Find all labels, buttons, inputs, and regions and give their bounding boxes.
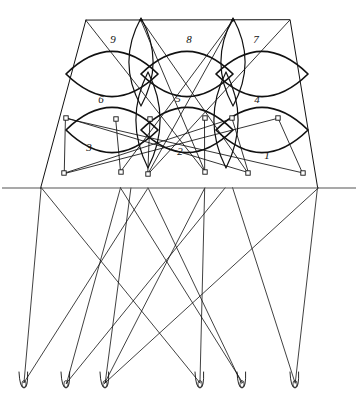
node-marker-mid [230, 116, 234, 120]
node-marker-lower [146, 172, 150, 176]
node-marker-mid [64, 116, 68, 120]
label-8: 8 [186, 33, 192, 45]
label-6: 6 [98, 93, 104, 105]
apex-node [139, 18, 142, 21]
node-marker-lower [119, 170, 123, 174]
node-marker-lower [203, 170, 207, 174]
label-2: 2 [177, 145, 183, 157]
label-9: 9 [110, 33, 116, 45]
node-marker-lower [301, 171, 305, 175]
node-marker-lower [246, 171, 250, 175]
node-marker-mid [148, 117, 152, 121]
label-1: 1 [264, 149, 270, 161]
label-7: 7 [253, 33, 259, 45]
node-marker-mid [114, 117, 118, 121]
node-marker-mid [276, 116, 280, 120]
geometric-diagram: 987654321 [0, 0, 358, 407]
diagram-canvas: 987654321 [0, 0, 358, 407]
node-marker-mid [203, 116, 207, 120]
label-4: 4 [254, 93, 260, 105]
label-5: 5 [175, 92, 181, 104]
node-marker-lower [62, 171, 66, 175]
apex-node [231, 18, 234, 21]
label-3: 3 [85, 141, 92, 153]
